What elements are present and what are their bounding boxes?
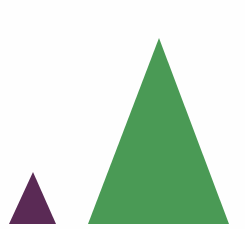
- canvas: [0, 0, 245, 229]
- small-purple-triangle: [9, 172, 56, 224]
- large-green-triangle: [88, 38, 229, 224]
- triangles-figure: [0, 0, 245, 229]
